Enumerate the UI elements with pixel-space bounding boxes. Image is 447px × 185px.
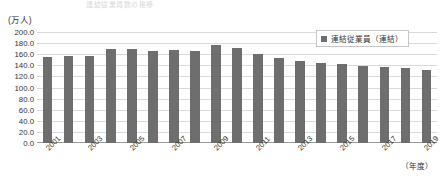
chart-title: 連結従業員数の推移 [86, 0, 276, 9]
bar [316, 63, 326, 143]
legend-label: 連結従業員（連結） [331, 33, 403, 44]
y-axis-tick-label: 0.0 [23, 139, 34, 148]
chart-container: 連結従業員数の推移 (万人) 0.020.040.060.080.0100.01… [0, 0, 447, 185]
bar [127, 49, 137, 143]
bar [337, 64, 347, 143]
y-axis-tick-label: 160.0 [14, 50, 34, 59]
plot-area [37, 32, 437, 143]
bar [106, 49, 116, 143]
x-axis-tick-labels: 2001200320052007200920112013201520172019 [37, 144, 437, 178]
bar [232, 48, 242, 143]
y-axis-tick-label: 140.0 [14, 61, 34, 70]
bar [274, 58, 284, 143]
bar [253, 54, 263, 143]
bar [211, 45, 221, 143]
y-axis-tick-label: 100.0 [14, 83, 34, 92]
bar [64, 56, 74, 143]
bar [169, 50, 179, 143]
bar [422, 70, 432, 143]
bar [85, 56, 95, 143]
y-axis-tick-labels: 0.020.040.060.080.0100.0120.0140.0160.01… [0, 32, 34, 143]
y-axis-tick-label: 80.0 [19, 94, 34, 103]
legend-swatch-icon [321, 36, 327, 42]
bar [295, 61, 305, 143]
bar [380, 67, 390, 143]
y-axis-tick-label: 40.0 [19, 116, 34, 125]
chart-legend: 連結従業員（連結） [316, 30, 409, 47]
bar [148, 51, 158, 143]
bar [401, 68, 411, 143]
x-axis-caption: （年度） [401, 160, 433, 171]
y-axis-tick-label: 200.0 [14, 28, 34, 37]
y-axis-tick-label: 120.0 [14, 72, 34, 81]
y-axis-tick-label: 60.0 [19, 105, 34, 114]
bar [190, 51, 200, 143]
bar [43, 57, 53, 143]
y-axis-tick-label: 20.0 [19, 127, 34, 136]
y-axis-unit-label: (万人) [8, 13, 32, 25]
bar [358, 66, 368, 143]
y-axis-tick-label: 180.0 [14, 39, 34, 48]
